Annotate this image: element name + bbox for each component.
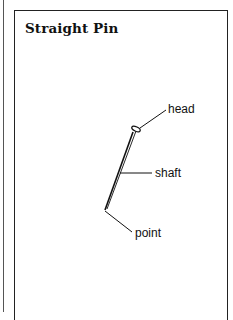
- point-leader-line: [105, 211, 132, 232]
- label-head: head: [168, 102, 195, 116]
- pin-shaft-line: [105, 132, 133, 210]
- pin-head: [131, 125, 141, 133]
- label-shaft: shaft: [155, 166, 181, 180]
- pin-shaft-line-2: [107, 131, 136, 209]
- label-point: point: [135, 226, 161, 240]
- head-leader-line: [140, 110, 166, 128]
